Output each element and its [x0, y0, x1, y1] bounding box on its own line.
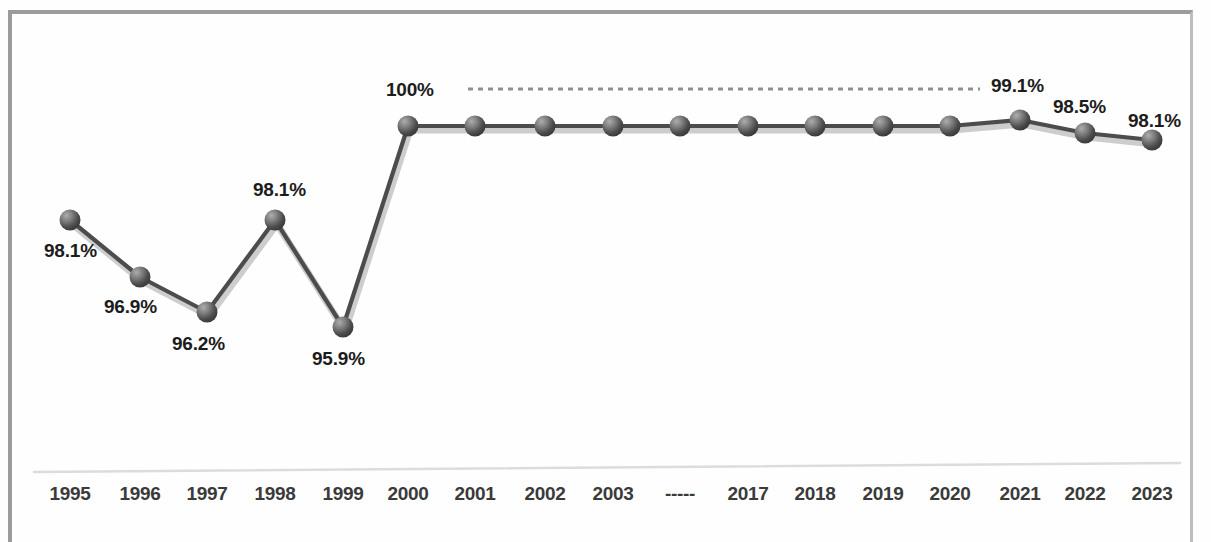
data-point-2023 — [1142, 130, 1163, 151]
data-point-2019 — [873, 116, 894, 137]
value-label-1998: 98.1% — [253, 179, 306, 201]
data-point-2018 — [805, 116, 826, 137]
value-label-2021: 99.1% — [991, 75, 1044, 97]
data-point-1997 — [197, 302, 218, 323]
data-point-2017 — [738, 116, 759, 137]
value-label-1995: 98.1% — [44, 240, 97, 262]
series-line-shadow — [72, 124, 1154, 331]
value-label-2022: 98.5% — [1053, 96, 1106, 118]
data-point-2021 — [1010, 110, 1031, 131]
series-line — [70, 120, 1152, 327]
data-point-2001 — [465, 116, 486, 137]
value-label-2023: 98.1% — [1128, 110, 1181, 132]
chart-canvas: 98.1% 96.9% 96.2% 98.1% 95.9% 100% 99.1%… — [0, 0, 1211, 542]
value-label-1999: 95.9% — [312, 348, 365, 370]
data-point-1996 — [130, 267, 151, 288]
data-point-2002 — [535, 116, 556, 137]
data-point-2020 — [940, 116, 961, 137]
data-point-markers — [60, 110, 1163, 338]
data-point-2000 — [398, 116, 419, 137]
value-label-1996: 96.9% — [104, 296, 157, 318]
data-point-2022 — [1075, 123, 1096, 144]
value-label-1997: 96.2% — [172, 333, 225, 355]
x-tick-2023: 2023 — [1110, 483, 1194, 505]
data-point-gap — [670, 116, 691, 137]
data-point-1998 — [265, 210, 286, 231]
value-label-2000: 100% — [386, 79, 434, 101]
data-point-1995 — [60, 210, 81, 231]
data-point-1999 — [333, 317, 354, 338]
data-point-2003 — [603, 116, 624, 137]
x-axis-baseline — [34, 463, 1180, 472]
